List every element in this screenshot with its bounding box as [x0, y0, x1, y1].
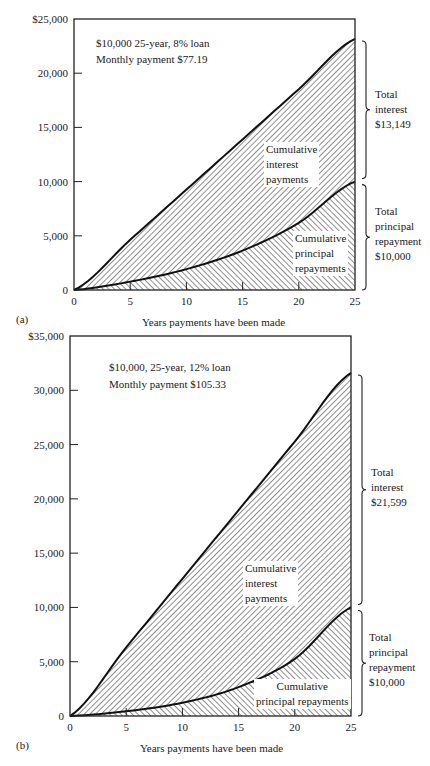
chart-b-interest-area-label: Cumulative interest payments [243, 561, 298, 606]
chart-a-total-principal-label: Total principal repayment $10,000 [375, 204, 421, 264]
y-tick-label: 30,000 [34, 384, 65, 396]
x-tick-label: 5 [127, 295, 133, 307]
chart-a-x-axis-title: Years payments have been made [142, 315, 285, 330]
x-tick-label: 20 [293, 295, 305, 307]
chart-b-annotation-line1: $10,000, 25-year, 12% loan [109, 360, 231, 375]
chart-a-annotation-line2: Monthly payment $77.19 [96, 52, 208, 67]
x-tick-label: 0 [67, 721, 73, 733]
chart-b-annotation-line2: Monthly payment $105.33 [109, 377, 226, 392]
x-tick-label: 20 [289, 721, 301, 733]
y-tick-label: 0 [59, 710, 65, 722]
x-tick-label: 25 [350, 295, 362, 307]
y-tick-label: 10,000 [38, 176, 69, 188]
chart-b-total-principal-label: Total principal repayment $10,000 [369, 630, 415, 690]
y-tick-label: 25,000 [34, 439, 65, 451]
chart-a-annotation-line1: $10,000 25-year, 8% loan [96, 36, 210, 51]
chart-b-x-axis-title: Years payments have been made [140, 741, 283, 756]
principal-brace [358, 610, 366, 716]
principal-brace [362, 185, 370, 290]
x-tick-label: 10 [177, 721, 189, 733]
x-tick-label: 25 [346, 721, 358, 733]
chart-b-principal-area-label: Cumulative principal repayments [254, 679, 351, 709]
x-tick-label: 0 [71, 295, 77, 307]
interest-brace [358, 375, 366, 605]
x-tick-label: 15 [237, 295, 249, 307]
y-tick-label: 5,000 [43, 230, 68, 242]
chart-a-total-interest-label: Total interest $13,149 [375, 87, 411, 132]
y-tick-label: 15,000 [38, 121, 69, 133]
x-tick-label: 15 [233, 721, 245, 733]
y-tick-label: 0 [63, 284, 69, 296]
chart-b-panel-label: (b) [16, 738, 29, 753]
y-tick-label: $35,000 [28, 330, 64, 342]
x-tick-label: 5 [123, 721, 129, 733]
chart-a-panel-label: (a) [16, 312, 28, 327]
y-tick-label: 20,000 [34, 493, 65, 505]
chart-a-interest-area-label: Cumulative interest payments [264, 142, 319, 187]
y-tick-label: $25,000 [32, 13, 68, 25]
x-tick-label: 10 [181, 295, 193, 307]
y-tick-label: 20,000 [38, 67, 69, 79]
chart-a-principal-area-label: Cumulative principal repayments [293, 231, 348, 276]
chart-b-total-interest-label: Total interest $21,599 [371, 465, 407, 510]
interest-brace [362, 41, 370, 179]
y-tick-label: 5,000 [39, 656, 64, 668]
y-tick-label: 15,000 [34, 547, 65, 559]
y-tick-label: 10,000 [34, 601, 65, 613]
